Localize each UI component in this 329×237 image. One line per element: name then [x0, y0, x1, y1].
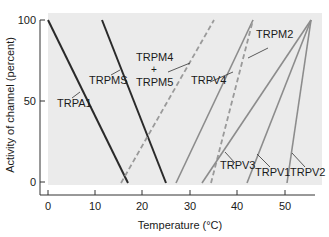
label-trpm2: TRPM2: [256, 28, 293, 40]
y-axis: [40, 20, 45, 195]
y-tick-50: 50: [24, 95, 36, 107]
x-tick-20: 20: [136, 200, 148, 212]
y-tick-0: 0: [30, 176, 36, 188]
temperature-activity-chart: 100 50 0 0 10 20 30 40 50 Temperature (°…: [0, 0, 329, 237]
y-tick-100: 100: [18, 14, 36, 26]
x-tick-30: 30: [184, 200, 196, 212]
label-trpm5: TRPM5: [136, 76, 173, 88]
x-tick-10: 10: [89, 200, 101, 212]
label-trpv2: TRPV2: [290, 166, 325, 178]
y-axis-title: Activity of channel (percent): [4, 37, 16, 173]
label-trpa1: TRPA1: [57, 97, 92, 109]
label-trpm4: TRPM4: [136, 51, 173, 63]
label-trpm8: TRPMS: [89, 74, 128, 86]
label-plus: +: [151, 64, 157, 75]
x-tick-0: 0: [45, 200, 51, 212]
x-axis-title: Temperature (°C): [138, 219, 222, 231]
x-tick-40: 40: [231, 200, 243, 212]
label-trpv4: TRPV4: [191, 74, 226, 86]
label-trpv1: TRPV1: [255, 166, 290, 178]
x-axis: [40, 190, 315, 195]
label-trpv3: TRPV3: [220, 159, 255, 171]
x-tick-50: 50: [279, 200, 291, 212]
